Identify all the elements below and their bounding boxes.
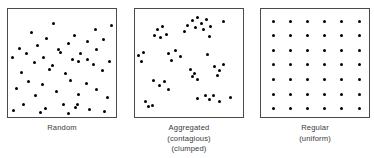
data-point xyxy=(77,60,80,63)
caption-line: Random xyxy=(7,123,117,134)
data-point xyxy=(200,22,203,25)
data-point xyxy=(151,104,154,107)
data-point xyxy=(208,98,211,101)
data-point xyxy=(86,58,89,61)
data-point xyxy=(189,68,192,71)
data-point xyxy=(289,20,292,23)
data-point xyxy=(44,107,47,110)
data-point xyxy=(229,96,232,99)
data-point xyxy=(196,78,199,81)
data-point xyxy=(167,88,170,91)
data-point xyxy=(158,84,161,87)
data-point xyxy=(204,94,207,97)
data-point xyxy=(156,28,159,31)
data-point xyxy=(306,78,309,81)
data-point xyxy=(222,20,225,23)
caption-line: Aggregated xyxy=(134,123,244,134)
data-point xyxy=(59,51,62,54)
data-point xyxy=(289,107,292,110)
data-point xyxy=(323,34,326,37)
data-point xyxy=(358,34,361,37)
data-point xyxy=(306,93,309,96)
data-point xyxy=(165,33,168,36)
data-point xyxy=(306,63,309,66)
caption-line: (uniform) xyxy=(260,134,370,145)
caption-line: (clumped) xyxy=(134,144,244,155)
data-point xyxy=(20,71,23,74)
data-point xyxy=(340,107,343,110)
data-point xyxy=(103,110,106,113)
data-point xyxy=(323,78,326,81)
data-point xyxy=(71,58,74,61)
panel-caption-aggregated: Aggregated(contagious)(clumped) xyxy=(134,123,244,155)
data-point xyxy=(74,106,77,109)
data-point xyxy=(62,103,65,106)
data-point xyxy=(272,20,275,23)
data-point xyxy=(323,49,326,52)
data-point xyxy=(163,80,166,83)
data-point xyxy=(358,93,361,96)
data-point xyxy=(218,69,221,72)
data-point xyxy=(358,78,361,81)
data-point xyxy=(22,103,25,106)
data-point xyxy=(77,93,80,96)
data-point xyxy=(191,75,194,78)
data-point xyxy=(110,24,113,27)
data-point xyxy=(76,103,79,106)
dispersion-pattern-figure: RandomAggregated(contagious)(clumped)Reg… xyxy=(0,0,374,158)
data-point xyxy=(289,93,292,96)
data-point xyxy=(108,60,111,63)
data-point xyxy=(64,72,67,75)
data-point xyxy=(306,49,309,52)
data-point xyxy=(41,83,44,86)
data-point xyxy=(137,54,140,57)
data-point xyxy=(153,34,156,37)
data-point xyxy=(179,55,182,58)
data-point xyxy=(212,94,215,97)
data-point xyxy=(323,63,326,66)
data-point xyxy=(272,93,275,96)
data-point xyxy=(213,65,216,68)
data-point xyxy=(340,49,343,52)
data-point xyxy=(57,48,60,51)
caption-line: (contagious) xyxy=(134,134,244,145)
data-point xyxy=(51,64,54,67)
data-point xyxy=(222,63,225,66)
data-point xyxy=(194,26,197,29)
data-point xyxy=(11,56,14,59)
data-point xyxy=(144,100,147,103)
data-point xyxy=(358,107,361,110)
data-point xyxy=(101,69,104,72)
data-point xyxy=(140,60,143,63)
data-point xyxy=(106,96,109,99)
data-point xyxy=(30,31,33,34)
data-point xyxy=(193,72,196,75)
data-point xyxy=(216,74,219,77)
data-point xyxy=(69,79,72,82)
data-point xyxy=(147,105,150,108)
data-point xyxy=(196,16,199,19)
data-point xyxy=(152,79,155,82)
data-point xyxy=(95,88,98,91)
data-point xyxy=(45,37,48,40)
data-point xyxy=(55,90,58,93)
panel-caption-random: Random xyxy=(7,123,117,134)
data-point xyxy=(170,59,173,62)
data-point xyxy=(18,47,21,50)
data-point xyxy=(191,19,194,22)
data-point xyxy=(183,30,186,33)
data-point xyxy=(272,107,275,110)
data-point xyxy=(39,111,42,114)
data-point xyxy=(94,28,97,31)
data-point xyxy=(272,34,275,37)
panel-frame-random xyxy=(7,8,117,118)
data-point xyxy=(86,40,89,43)
data-point xyxy=(142,51,145,54)
data-point xyxy=(272,49,275,52)
data-point xyxy=(306,107,309,110)
data-point xyxy=(33,61,36,64)
data-point xyxy=(340,93,343,96)
panel-frame-regular xyxy=(260,8,370,118)
data-point xyxy=(206,53,209,56)
data-point xyxy=(159,36,162,39)
